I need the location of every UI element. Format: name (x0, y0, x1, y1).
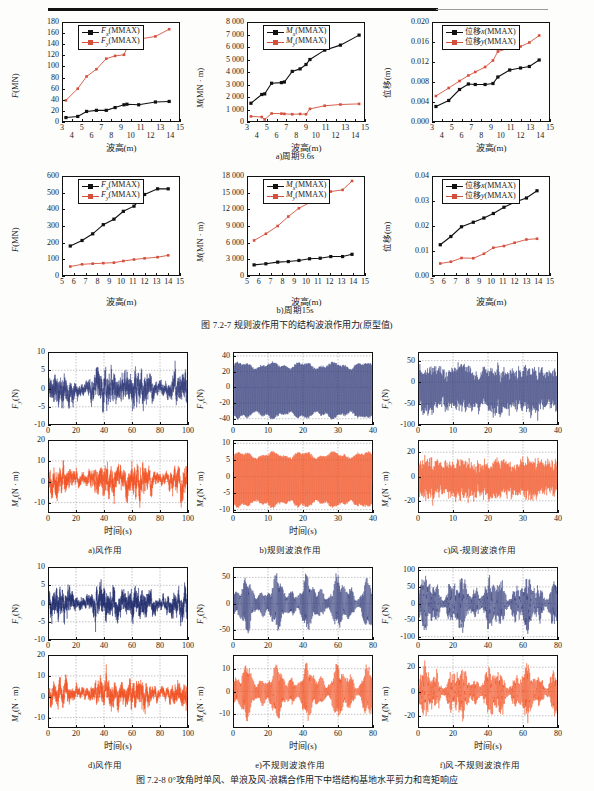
x-tick-mark (233, 510, 234, 513)
x-tick-label: 3 (422, 124, 442, 132)
x-tick-mark (132, 637, 133, 640)
x-tick-mark (538, 273, 539, 276)
y-tick-label: 0 (390, 378, 415, 386)
legend-f-96: Fx(MMAX) Fy(MMAX) (78, 25, 144, 50)
legend-item: 位移x(MMAX) (446, 181, 516, 191)
x-tick-mark (353, 273, 354, 276)
x-tick-mark (488, 422, 489, 425)
legend-label: 位移y(MMAX) (465, 37, 516, 47)
y-tick-mark (62, 78, 65, 79)
plot-area-a-fy (48, 352, 188, 425)
x-tick-mark (481, 119, 482, 122)
x-axis-label: 波高(m) (412, 295, 570, 308)
x-tick-mark (168, 273, 169, 276)
y-tick-label: 6 000 (205, 239, 244, 247)
y-tick-label: 5 (20, 366, 45, 374)
x-tick-mark (76, 510, 77, 513)
x-tick-mark (523, 725, 524, 728)
textbook-page: 0204060801001201401601803456789101112131… (0, 0, 594, 791)
legend-swatch-y (267, 193, 284, 200)
x-tick-mark (558, 510, 559, 513)
x-tick-mark (444, 273, 445, 276)
y-tick-label: -10 (20, 714, 45, 722)
x-tick-label: 20 (477, 427, 499, 435)
x-tick-mark (338, 510, 339, 513)
x-tick-mark (104, 725, 105, 728)
y-axis-label: Fy(N) (195, 604, 207, 624)
x-tick-label: 20 (65, 515, 87, 523)
x-tick-mark (453, 510, 454, 513)
x-tick-mark (76, 637, 77, 640)
x-tick-label: 40 (292, 730, 314, 738)
y-axis-label: 位移(m) (380, 222, 392, 252)
legend-swatch-y (446, 39, 463, 46)
x-tick-label: 80 (149, 515, 171, 523)
y-tick-label: 600 (20, 172, 59, 180)
y-tick-label: 140 (20, 40, 59, 48)
y-tick-mark (247, 72, 250, 73)
plot-area-d-mx (48, 655, 188, 728)
x-tick-mark (373, 422, 374, 425)
y-tick-label: 5 000 (205, 56, 244, 64)
x-tick-mark (267, 119, 268, 122)
y-tick-label: 0 (390, 688, 415, 696)
y-tick-label: 10 (20, 672, 45, 680)
y-tick-label: 20 (390, 448, 415, 456)
y-tick-mark (432, 42, 435, 43)
y-tick-label: 120 (20, 51, 59, 59)
x-tick-label: 5 (257, 124, 277, 132)
y-tick-label: 100 (20, 62, 59, 70)
figure-7-2-8-caption: 图 7.2-8 0°攻角时单风、单浪及风-浪耦合作用下中塔结构基地水平剪力和弯矩… (27, 773, 567, 786)
x-tick-label: 100 (177, 427, 199, 435)
x-tick-mark (48, 637, 49, 640)
x-tick-label: 40 (547, 427, 569, 435)
y-tick-label: 0.03 (390, 197, 429, 205)
legend-m-96: Mx(MMAX) My(MMAX) (263, 25, 330, 50)
x-tick-label: 40 (362, 515, 384, 523)
x-tick-label: 15 (170, 278, 190, 286)
x-tick-mark (550, 273, 551, 276)
plot-area-a-mx (48, 440, 188, 513)
y-tick-label: 50 (205, 573, 230, 581)
y-tick-label: 0 (205, 688, 230, 696)
x-tick-label: 0 (37, 730, 59, 738)
subcaption-d-wind: d)风作用 (20, 758, 190, 770)
plot-area-b-fy (233, 352, 373, 425)
x-tick-label: 60 (512, 730, 534, 738)
y-tick-mark (48, 370, 51, 371)
y-tick-label: 0 (205, 600, 230, 608)
y-tick-label: -40 (205, 415, 230, 423)
y-tick-label: 0.016 (390, 38, 429, 46)
x-tick-label: 6 (267, 132, 287, 140)
x-tick-label: 100 (177, 642, 199, 650)
x-tick-label: 80 (149, 427, 171, 435)
x-tick-label: 5 (442, 124, 462, 132)
x-axis-label: 时间(s) (28, 524, 208, 537)
y-tick-mark (247, 259, 250, 260)
legend-label: Fy(MMAX) (101, 190, 140, 203)
x-tick-mark (141, 119, 142, 122)
x-tick-label: 0 (37, 427, 59, 435)
x-tick-label: 0 (407, 427, 429, 435)
x-tick-mark (558, 725, 559, 728)
y-axis-label: Fy(N) (10, 604, 22, 624)
x-tick-label: 15 (540, 278, 560, 286)
x-tick-mark (515, 273, 516, 276)
y-tick-mark (48, 352, 51, 353)
x-tick-mark (294, 273, 295, 276)
x-tick-mark (247, 273, 248, 276)
x-tick-mark (170, 119, 171, 122)
x-tick-mark (132, 725, 133, 728)
y-tick-mark (62, 55, 65, 56)
legend-label: My(MMAX) (286, 190, 326, 203)
x-tick-mark (151, 119, 152, 122)
y-tick-label: 0 (390, 473, 415, 481)
x-tick-mark (160, 422, 161, 425)
x-tick-label: 20 (65, 427, 87, 435)
x-axis-label: 波高(m) (412, 141, 570, 154)
x-tick-mark (418, 510, 419, 513)
x-tick-label: 0 (222, 427, 244, 435)
x-tick-label: 20 (65, 730, 87, 738)
y-tick-label: -10 (205, 506, 230, 514)
x-tick-mark (268, 725, 269, 728)
